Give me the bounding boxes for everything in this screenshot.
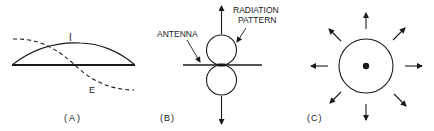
panel-c: (C) [307, 13, 422, 123]
antenna-point [363, 63, 369, 69]
radiation-pattern-label-1: RADIATION [233, 5, 279, 15]
current-curve-i [12, 43, 135, 65]
antenna-pointer [187, 40, 200, 62]
panel-b: ANTENNA RADIATION PATTERN (B) [157, 5, 279, 124]
panel-b-label: (B) [160, 113, 175, 123]
panel-a: I E (A) [12, 32, 135, 123]
arrow-sw-icon [330, 92, 341, 103]
antenna-diagram: I E (A) ANTENNA RADIATION PATTERN (B) (C… [0, 0, 434, 131]
upper-lobe [207, 35, 237, 65]
arrow-ne-icon [393, 28, 405, 40]
pattern-pointer [237, 28, 246, 42]
curve-i-label: I [69, 32, 72, 43]
panel-a-label: (A) [64, 113, 82, 123]
radiation-pattern-label-2: PATTERN [238, 15, 276, 25]
lower-lobe [207, 65, 237, 95]
arrow-se-icon [394, 94, 406, 106]
antenna-label: ANTENNA [157, 29, 198, 39]
curve-e-label: E [89, 85, 95, 95]
panel-c-label: (C) [307, 113, 323, 123]
arrow-nw-icon [329, 29, 341, 41]
